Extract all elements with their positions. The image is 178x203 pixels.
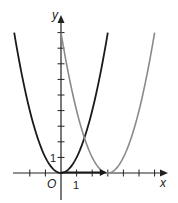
y-tick-one-label: 1: [50, 152, 56, 164]
parabola-translated: [61, 33, 155, 173]
graph: y x O 1 1: [0, 0, 178, 203]
origin-label: O: [47, 177, 56, 191]
y-axis-label: y: [51, 8, 59, 22]
translation-arrowhead-icon: [100, 169, 107, 176]
y-axis-arrowhead-icon: [58, 15, 65, 23]
x-axis-label: x: [159, 176, 167, 190]
curves: [14, 33, 154, 176]
x-tick-one-label: 1: [73, 179, 79, 191]
